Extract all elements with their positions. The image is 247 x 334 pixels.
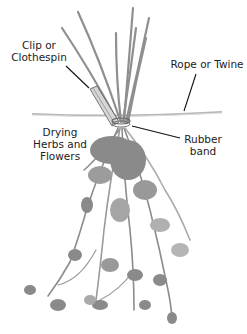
label-rope-or-twine: Rope or Twine [168,58,246,70]
label-rubber-band: Rubber band [178,133,228,157]
label-drying-herbs-and-flowers: Drying Herbs and Flowers [30,126,90,162]
label-clip-or-clothespin: Clip or Clothespin [4,39,74,63]
herb-drying-diagram: Clip or Clothespin Rope or Twine Drying … [0,0,247,334]
